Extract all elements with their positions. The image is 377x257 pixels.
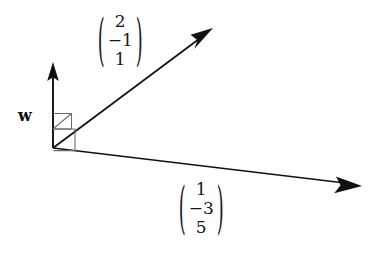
vector-w-label: w <box>18 108 32 124</box>
left-paren-bottom: ( <box>179 180 186 237</box>
right-paren-top: ) <box>136 12 143 69</box>
vector-lower-right-arrowhead <box>334 177 362 194</box>
vector-upper-right-component-2: −1 <box>108 31 133 50</box>
vector-lower-right-components: 1 −3 5 <box>187 180 216 237</box>
right-angle-marker-upper <box>53 114 72 130</box>
vector-lower-right-component-3: 5 <box>196 218 207 237</box>
right-paren-bottom: ) <box>217 180 224 237</box>
vector-upper-right-component-1: 2 <box>115 12 126 31</box>
vector-upper-right-label: ( 2 −1 1 ) <box>97 12 143 69</box>
left-paren-top: ( <box>98 12 105 69</box>
vector-lower-right-label: ( 1 −3 5 ) <box>178 180 224 237</box>
vector-lower-right-component-2: −3 <box>189 199 214 218</box>
vector-w <box>47 62 59 148</box>
vector-lower-right-component-1: 1 <box>196 180 207 199</box>
vector-upper-right-arrowhead <box>191 28 214 49</box>
vector-upper-right-components: 2 −1 1 <box>106 12 135 69</box>
vector-lower-right-shaft <box>53 148 345 183</box>
vector-upper-right-component-3: 1 <box>115 50 126 69</box>
right-angle-upper-hypotenuse <box>53 114 72 130</box>
vector-diagram-figure: w ( 2 −1 1 ) ( 1 −3 5 ) <box>0 0 377 257</box>
